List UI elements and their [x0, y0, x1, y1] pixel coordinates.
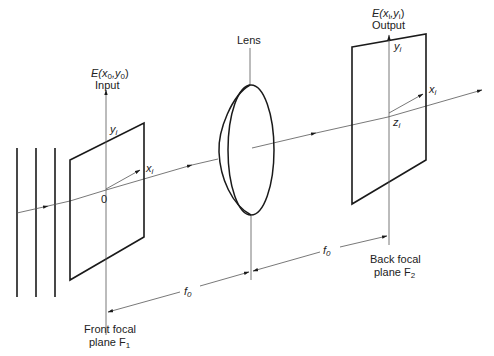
output-plane: [352, 34, 426, 245]
front-distance-label: f0: [184, 285, 192, 299]
front-focal-plane-line1: Front focal: [84, 323, 136, 335]
back-focal-plane-line2: plane F2: [374, 266, 416, 280]
front-focal-plane-line2: plane F1: [89, 336, 131, 350]
output-name: Output: [372, 19, 405, 31]
input-name: Input: [95, 79, 119, 91]
lens: [219, 48, 274, 280]
input-x-label: xi: [145, 162, 154, 176]
front-distance-dimension: [108, 272, 249, 312]
input-plane: [70, 90, 144, 335]
output-x-label: xi: [428, 83, 437, 97]
output-x-axis: [389, 94, 423, 113]
back-distance-dimension: [253, 236, 387, 271]
input-x-axis: [106, 170, 140, 189]
lens-label: Lens: [237, 34, 261, 46]
fourier-optics-diagram: E(x0,y0) Input yi xi 0 Lens E(xi,yi) Out…: [0, 0, 494, 356]
input-origin-label: 0: [101, 193, 107, 205]
output-z-label: zi: [392, 116, 401, 130]
back-focal-plane-line1: Back focal: [370, 253, 421, 265]
input-y-label: yi: [109, 123, 118, 137]
back-distance-label: f0: [323, 244, 331, 258]
plane-wavefronts: [17, 148, 55, 297]
output-y-label: yi: [393, 40, 402, 54]
